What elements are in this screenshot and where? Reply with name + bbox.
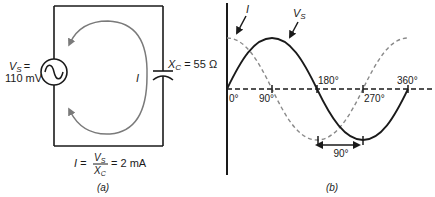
- voltage-curve-label: VS: [293, 7, 306, 21]
- svg-text:XC: XC: [93, 165, 107, 177]
- caption-b: (b): [326, 182, 338, 193]
- phase-shift-label: 90°: [333, 148, 348, 159]
- voltage-pointer-arrow-icon: [290, 22, 298, 37]
- circuit-panel: VS= 110 mV XC= 55 Ω I I = VS XC = 2 mA (…: [5, 6, 217, 193]
- angle-label-360: 360°: [397, 75, 418, 86]
- angle-label-0: 0°: [229, 93, 239, 104]
- svg-text:VS: VS: [94, 152, 106, 164]
- current-formula: I = VS XC = 2 mA: [74, 152, 147, 177]
- angle-label-270: 270°: [364, 93, 385, 104]
- angle-label-180: 180°: [318, 75, 339, 86]
- capacitor-label: XC= 55 Ω: [167, 58, 217, 72]
- ac-source-icon: [41, 59, 67, 85]
- current-curve-label: I: [246, 3, 249, 15]
- caption-a: (a): [97, 182, 109, 193]
- angle-label-90: 90°: [259, 93, 274, 104]
- source-value: 110 mV: [5, 72, 43, 84]
- svg-text:= 2 mA: = 2 mA: [111, 157, 147, 169]
- current-pointer-arrow-icon: [237, 16, 246, 33]
- diagram-canvas: VS= 110 mV XC= 55 Ω I I = VS XC = 2 mA (…: [0, 0, 435, 197]
- waveform-panel: 0° 90° 180° 270° 360° 90° I VS (b): [227, 3, 433, 193]
- current-label: I: [136, 72, 139, 84]
- axis-ticks: [272, 85, 408, 145]
- svg-text:I =: I =: [74, 157, 87, 169]
